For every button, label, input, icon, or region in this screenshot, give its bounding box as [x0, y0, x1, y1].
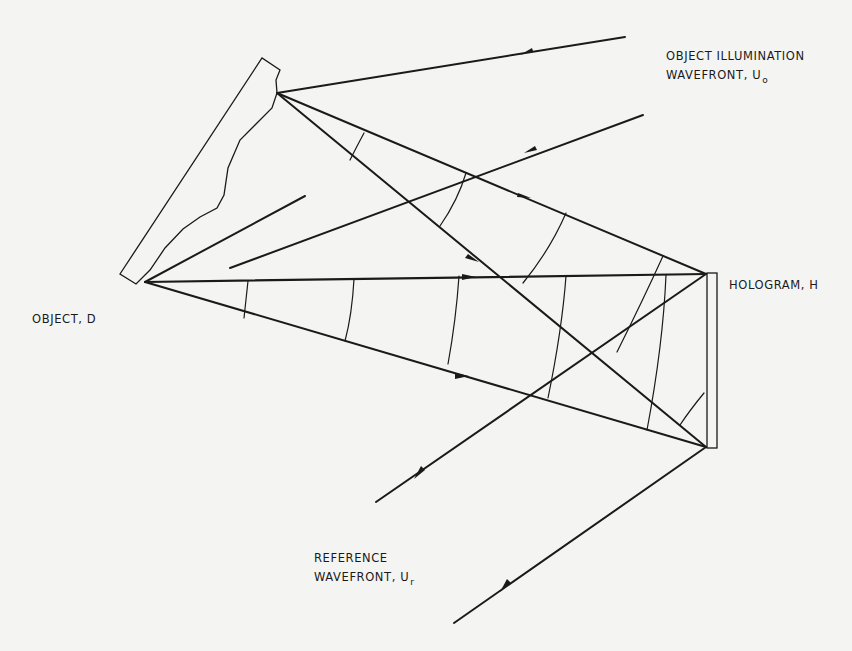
illumination-ray-top: [277, 37, 625, 93]
hologram-plate: [707, 273, 717, 448]
object-outline: [120, 58, 280, 284]
arrow-icon: [520, 48, 533, 55]
arrow-icon: [414, 466, 425, 479]
illumination-ray-lower: [230, 115, 643, 268]
reference-ray: [376, 274, 706, 502]
hologram-recording-diagram: [0, 0, 852, 651]
label-hologram: HOLOGRAM, H: [729, 276, 819, 295]
label-line1: OBJECT ILLUMINATION: [666, 47, 805, 66]
object-ray: [145, 196, 305, 282]
arrow-icon: [455, 373, 469, 379]
object-ray: [145, 274, 706, 282]
object-ray: [145, 282, 706, 447]
object-ray: [277, 93, 706, 447]
label-object: OBJECT, D: [32, 310, 96, 329]
object-ray: [277, 93, 706, 274]
arrow-icon: [462, 274, 476, 280]
label-line2: WAVEFRONT, Uo: [666, 66, 805, 90]
arrow-icon: [524, 146, 537, 153]
reference-ray: [454, 447, 706, 623]
arrow-icon: [517, 193, 531, 198]
label-line2: WAVEFRONT, Ur: [314, 568, 415, 592]
label-line1: REFERENCE: [314, 549, 415, 568]
label-object-illumination: OBJECT ILLUMINATION WAVEFRONT, Uo: [666, 47, 805, 90]
label-reference: REFERENCE WAVEFRONT, Ur: [314, 549, 415, 592]
